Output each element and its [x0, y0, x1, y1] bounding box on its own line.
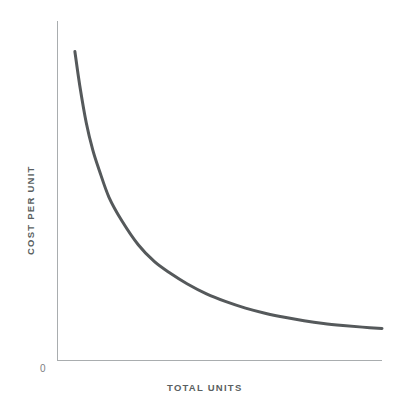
origin-label: 0	[40, 364, 46, 374]
chart-container: COST PER UNIT TOTAL UNITS 0	[0, 0, 399, 417]
y-axis-label: COST PER UNIT	[26, 165, 36, 255]
chart-plot-area	[0, 0, 399, 417]
x-axis-label: TOTAL UNITS	[167, 383, 243, 393]
cost-per-unit-curve	[75, 52, 382, 329]
